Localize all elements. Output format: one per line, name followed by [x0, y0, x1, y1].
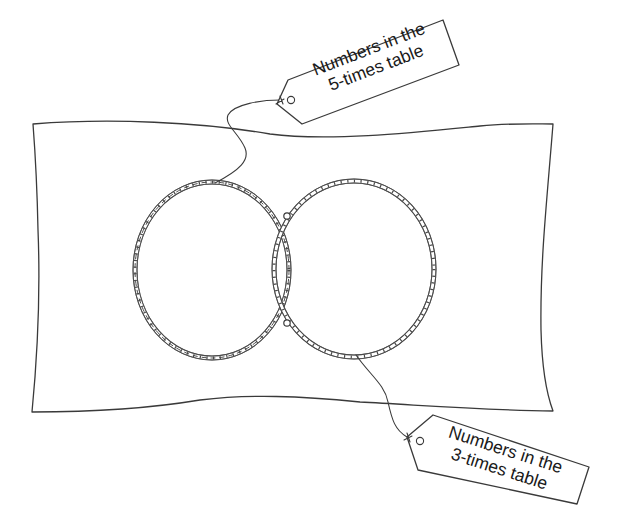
tag-hole-icon	[287, 96, 294, 103]
knot-top	[284, 213, 290, 219]
knot-bottom	[284, 320, 290, 326]
universal-set-sheet	[32, 121, 553, 412]
tag-hole-icon	[416, 437, 423, 444]
tag-3-times-table: Numbers in the 3-times table	[404, 415, 589, 504]
venn-diagram: Numbers in the 5-times table Numbers in …	[0, 0, 623, 523]
tag-5-times-table: Numbers in the 5-times table	[276, 18, 459, 124]
